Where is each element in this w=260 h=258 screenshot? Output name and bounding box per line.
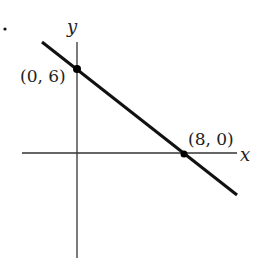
point-label-0-6: (0, 6): [20, 66, 66, 86]
bullet-dot: [3, 27, 6, 30]
point-label-8-0: (8, 0): [188, 129, 234, 149]
y-axis-label: y: [66, 16, 78, 37]
graph-line: [42, 42, 237, 195]
point-y-intercept: [73, 65, 81, 73]
graph: y x (0, 6) (8, 0): [0, 0, 260, 258]
point-x-intercept: [181, 151, 188, 158]
x-axis-label: x: [240, 144, 250, 165]
diagram-canvas: y x (0, 6) (8, 0): [0, 0, 260, 258]
